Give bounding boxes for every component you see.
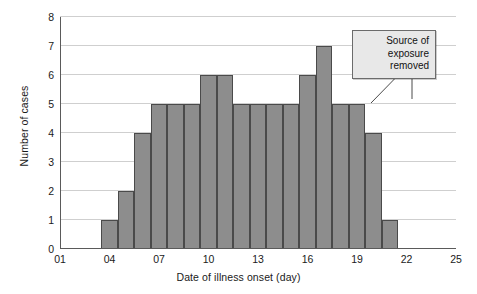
x-axis-line: [60, 248, 456, 249]
x-tick-label-13: 13: [243, 253, 273, 265]
x-tick-label-22: 22: [392, 253, 422, 265]
y-tick-label-6: 6: [38, 70, 54, 80]
x-tick-label-01: 01: [45, 253, 75, 265]
bar: [134, 133, 151, 249]
y-tick-label-2: 2: [38, 186, 54, 196]
y-tick-label-5: 5: [38, 99, 54, 109]
bar: [332, 104, 349, 249]
callout-line-2: exposure: [359, 48, 429, 61]
annotation-callout-box: Source of exposure removed: [352, 30, 436, 79]
x-tick-label-10: 10: [194, 253, 224, 265]
y-tick-label-1: 1: [38, 215, 54, 225]
bar: [266, 104, 283, 249]
bar: [200, 75, 217, 249]
y-axis-title: Number of cases: [18, 56, 30, 196]
callout-line-1: Source of: [359, 35, 429, 48]
bar: [151, 104, 168, 249]
bar: [365, 133, 382, 249]
bar: [167, 104, 184, 249]
bar: [184, 104, 201, 249]
bar: [382, 220, 399, 249]
x-tick-label-07: 07: [144, 253, 174, 265]
x-axis-title: Date of illness onset (day): [0, 271, 477, 283]
y-tick-label-3: 3: [38, 157, 54, 167]
x-tick-label-04: 04: [95, 253, 125, 265]
bar: [316, 46, 333, 249]
bar: [250, 104, 267, 249]
y-tick-label-8: 8: [38, 12, 54, 22]
x-tick-label-16: 16: [293, 253, 323, 265]
y-tick-label-4: 4: [38, 128, 54, 138]
bar: [283, 104, 300, 249]
epidemic-curve-figure: Number of cases Date of illness onset (d…: [0, 0, 477, 294]
y-axis-line: [60, 17, 61, 249]
x-tick-label-19: 19: [342, 253, 372, 265]
bar: [233, 104, 250, 249]
bar: [349, 104, 366, 249]
bar: [118, 191, 135, 249]
bar: [217, 75, 234, 249]
x-tick-label-25: 25: [441, 253, 471, 265]
callout-line-3: removed: [359, 60, 429, 73]
bar: [101, 220, 118, 249]
gridline-8: [60, 16, 456, 17]
y-tick-label-7: 7: [38, 41, 54, 51]
bar: [299, 75, 316, 249]
